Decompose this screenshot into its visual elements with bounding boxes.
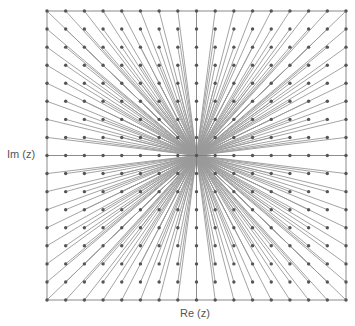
grid-point [288, 280, 291, 283]
grid-point [83, 190, 86, 193]
grid-point [64, 82, 67, 85]
grid-point [139, 208, 142, 211]
grid-point [326, 226, 329, 229]
grid-point [195, 298, 198, 301]
grid-point [64, 244, 67, 247]
grid-point [344, 172, 347, 175]
grid-point [45, 154, 48, 157]
grid-point [270, 172, 273, 175]
grid-point [307, 154, 310, 157]
grid-point [251, 208, 254, 211]
grid-point [251, 262, 254, 265]
grid-point [326, 172, 329, 175]
grid-point [45, 190, 48, 193]
grid-point [157, 208, 160, 211]
grid-point [270, 45, 273, 48]
grid-point [307, 226, 310, 229]
grid-point [195, 262, 198, 265]
grid-point [344, 226, 347, 229]
grid-point [139, 45, 142, 48]
grid-point [120, 136, 123, 139]
grid-point [213, 27, 216, 30]
grid-point [45, 172, 48, 175]
grid-point [288, 262, 291, 265]
grid-point [120, 45, 123, 48]
grid-point [64, 262, 67, 265]
grid-point [176, 226, 179, 229]
grid-point [213, 82, 216, 85]
grid-point [83, 262, 86, 265]
grid-point [326, 262, 329, 265]
grid-point [139, 9, 142, 12]
grid-point [101, 9, 104, 12]
grid-point [232, 226, 235, 229]
grid-point [101, 154, 104, 157]
grid-point [307, 136, 310, 139]
grid-point [251, 280, 254, 283]
grid-point [307, 244, 310, 247]
grid-point [344, 280, 347, 283]
grid-point [157, 244, 160, 247]
grid-point [232, 280, 235, 283]
grid-point [139, 226, 142, 229]
grid-point [251, 9, 254, 12]
grid-point [251, 172, 254, 175]
grid-point [157, 100, 160, 103]
grid-point [101, 136, 104, 139]
grid-point [83, 298, 86, 301]
grid-point [64, 118, 67, 121]
grid-point [251, 63, 254, 66]
x-axis-label: Re (z) [180, 307, 210, 319]
grid-point [251, 154, 254, 157]
grid-point [101, 208, 104, 211]
grid-point [120, 208, 123, 211]
grid-point [101, 262, 104, 265]
grid-point [157, 172, 160, 175]
grid-point [213, 226, 216, 229]
grid-point [101, 27, 104, 30]
grid-point [288, 27, 291, 30]
grid-point [120, 154, 123, 157]
grid-point [83, 82, 86, 85]
grid-point [176, 27, 179, 30]
grid-point [83, 9, 86, 12]
grid-point [64, 298, 67, 301]
grid-point [101, 298, 104, 301]
grid-point [45, 63, 48, 66]
grid-point [176, 45, 179, 48]
grid-point [213, 298, 216, 301]
grid-point [176, 118, 179, 121]
grid-point [195, 118, 198, 121]
grid-point [213, 63, 216, 66]
grid-point [270, 63, 273, 66]
grid-point [270, 154, 273, 157]
grid-point [45, 262, 48, 265]
grid-point [176, 82, 179, 85]
grid-point [157, 136, 160, 139]
grid-point [213, 244, 216, 247]
grid-point [288, 118, 291, 121]
grid-point [270, 208, 273, 211]
grid-point [213, 100, 216, 103]
grid-point [176, 9, 179, 12]
grid-point [213, 262, 216, 265]
grid-point [101, 280, 104, 283]
grid-point [157, 226, 160, 229]
grid-point [270, 82, 273, 85]
grid-point [326, 208, 329, 211]
grid-point [344, 298, 347, 301]
grid-point [326, 190, 329, 193]
grid-point [120, 244, 123, 247]
grid-point [213, 190, 216, 193]
grid-point [176, 100, 179, 103]
grid-point [213, 136, 216, 139]
grid-point [307, 45, 310, 48]
grid-point [45, 136, 48, 139]
grid-point [45, 244, 48, 247]
grid-point [195, 172, 198, 175]
grid-point [251, 298, 254, 301]
grid-point [45, 82, 48, 85]
grid-point [232, 244, 235, 247]
grid-point [120, 63, 123, 66]
grid-point [83, 244, 86, 247]
